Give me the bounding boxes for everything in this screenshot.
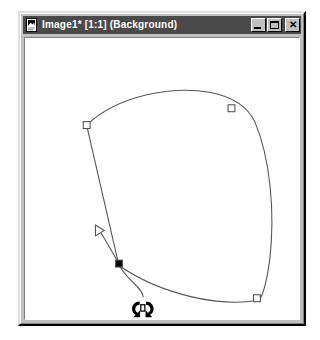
anchor-handles[interactable] (83, 105, 260, 302)
canvas-vector-layer (25, 38, 299, 319)
tangent-line (99, 230, 119, 264)
close-button[interactable]: ✕ (285, 18, 300, 32)
anchor-top-left[interactable] (83, 122, 90, 129)
triangle-hollow-icon[interactable] (95, 225, 104, 236)
maximize-icon (270, 21, 279, 29)
minimize-button[interactable] (251, 18, 266, 32)
minimize-icon (254, 27, 261, 29)
maximize-button[interactable] (267, 18, 282, 32)
bezier-closed-path[interactable] (87, 90, 272, 302)
close-icon: ✕ (286, 19, 299, 31)
screenshot-root: Image1* [1:1] (Background) ✕ (0, 0, 320, 340)
anchor-bottom-right[interactable] (253, 295, 260, 302)
window-inner-frame: Image1* [1:1] (Background) ✕ (20, 13, 304, 324)
rotate-cursor (132, 301, 154, 317)
window-controls: ✕ (251, 18, 300, 32)
rotate-cursor-center-box (141, 305, 145, 311)
image-canvas[interactable] (24, 37, 300, 320)
image-document-window[interactable]: Image1* [1:1] (Background) ✕ (18, 11, 306, 326)
rotate-cursor-left-arc (132, 301, 140, 317)
anchor-top-right[interactable] (228, 105, 235, 112)
image-document-icon (25, 18, 39, 32)
anchor-selected[interactable] (116, 260, 123, 267)
rotate-cursor-right-arc (146, 301, 154, 317)
window-title: Image1* [1:1] (Background) (42, 16, 247, 34)
window-titlebar[interactable]: Image1* [1:1] (Background) ✕ (23, 16, 301, 34)
